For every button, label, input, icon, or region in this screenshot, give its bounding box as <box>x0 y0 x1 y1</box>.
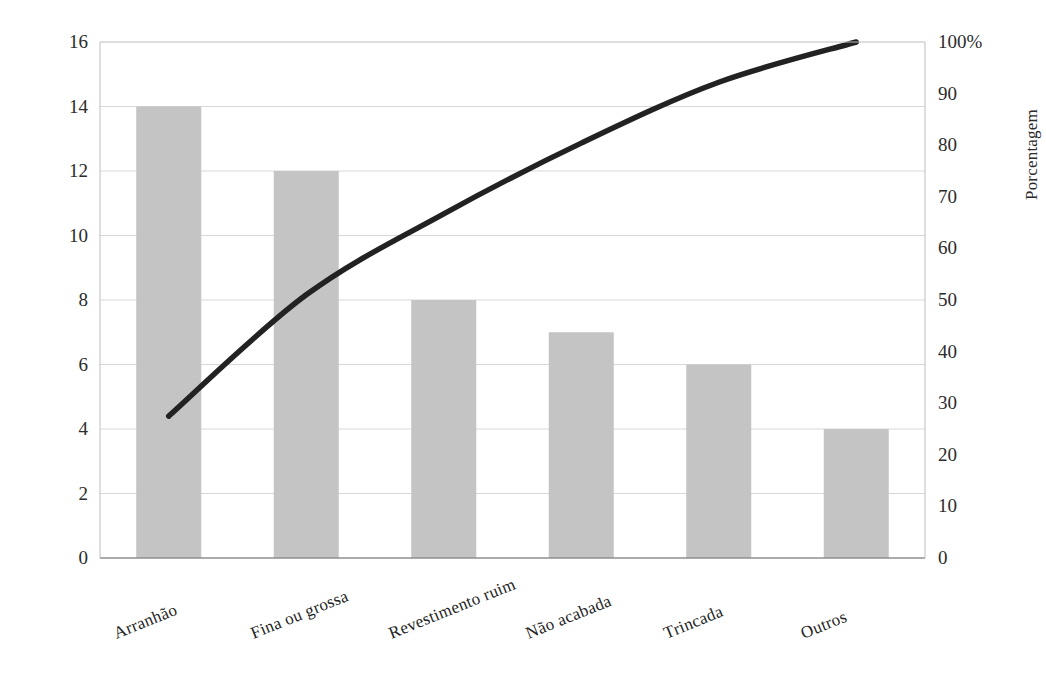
bar <box>411 300 476 558</box>
pareto-chart: Quantidade Porcentagem 1614121086420 100… <box>0 0 1046 700</box>
cumulative-line-series <box>169 42 857 416</box>
bar <box>274 171 339 558</box>
plot-area <box>0 0 1046 700</box>
bar <box>686 365 751 559</box>
gridlines <box>100 107 925 494</box>
cumulative-line <box>169 42 857 416</box>
bar <box>824 429 889 558</box>
bar <box>549 332 614 558</box>
bar <box>136 107 201 559</box>
